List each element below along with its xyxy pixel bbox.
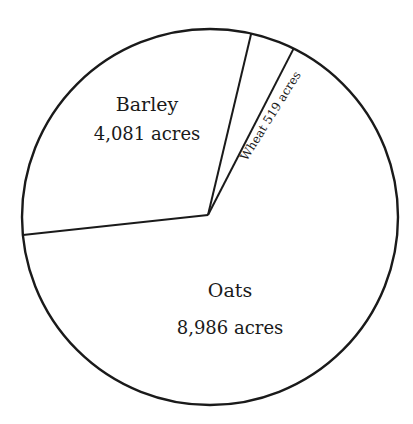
slice-boundary-oats: [23, 215, 208, 235]
pie-chart: Barley 4,081 acres Wheat 519 acres Oats …: [0, 0, 413, 424]
oats-label: Oats: [208, 279, 252, 301]
barley-value: 4,081 acres: [94, 123, 201, 144]
pie-outline: [22, 29, 398, 405]
slice-boundary-wheat: [208, 49, 294, 215]
wheat-label: Wheat 519 acres: [238, 69, 304, 163]
barley-label: Barley: [116, 93, 179, 115]
pie-slices: [22, 29, 398, 405]
slice-boundary-barley: [208, 34, 251, 215]
oats-value: 8,986 acres: [177, 317, 284, 338]
